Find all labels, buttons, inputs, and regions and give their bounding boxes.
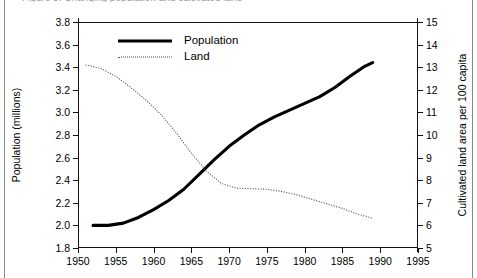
y-tick-right [418,203,423,204]
y-tick-label-right: 14 [426,39,438,50]
legend-label-population: Population [184,35,238,47]
y-tick-right [418,112,423,113]
x-tick-label: 1990 [369,256,392,267]
x-tick-label: 1965 [180,256,203,267]
y-tick-label-right: 15 [426,17,438,28]
x-tick [191,248,192,253]
y-tick-right [418,67,423,68]
y-tick-right [418,45,423,46]
y-tick-label-left: 1.8 [55,243,70,254]
x-tick [267,248,268,253]
y-tick-right [418,22,423,23]
y-tick-label-right: 6 [426,220,432,231]
x-tick-label: 1985 [331,256,354,267]
y-tick-label-right: 11 [426,107,437,118]
x-tick [78,248,79,253]
y-tick-right [418,225,423,226]
x-tick [305,248,306,253]
y-tick-label-left: 2.8 [55,130,70,141]
chart-screenshot: Figure 3. Changing population and cultiv… [0,0,477,278]
legend-item-population: Population [118,33,238,49]
x-tick-label: 1950 [66,256,89,267]
y-tick-label-left: 3.0 [55,107,70,118]
y-tick-label-right: 7 [426,198,432,209]
x-tick-label: 1975 [255,256,278,267]
figure-caption: Figure 3. Changing population and cultiv… [22,0,322,2]
x-tick [418,248,419,253]
page-border-left [4,0,5,278]
y-tick-right [418,135,423,136]
x-tick-label: 1960 [142,256,165,267]
x-tick-label: 1995 [406,256,429,267]
y-tick-label-right: 13 [426,62,438,73]
y-axis-right-title: Cultivated land area per 100 capita [456,54,468,217]
x-tick [229,248,230,253]
legend-swatch-population-icon [118,36,172,46]
x-tick [342,248,343,253]
legend-item-land: Land [118,49,238,65]
page-border-right [472,0,473,278]
y-tick-label-right: 12 [426,85,438,96]
legend-swatch-land-icon [118,52,172,62]
series-line-population [93,63,373,226]
y-tick-label-right: 10 [426,130,438,141]
y-tick-label-right: 8 [426,175,432,186]
y-tick-label-left: 2.4 [55,175,70,186]
legend-label-land: Land [184,51,210,63]
x-tick-label: 1955 [104,256,127,267]
y-tick-right [418,180,423,181]
y-tick-label-left: 2.0 [55,220,70,231]
chart-legend: Population Land [118,33,238,65]
y-axis-left-title: Population (millions) [10,88,22,183]
x-tick-label: 1980 [293,256,316,267]
y-tick-label-left: 3.8 [55,17,70,28]
y-tick-label-right: 5 [426,243,432,254]
x-tick [116,248,117,253]
y-tick-label-left: 2.6 [55,152,70,163]
y-tick-label-left: 3.2 [55,85,70,96]
y-tick-label-left: 3.4 [55,62,70,73]
x-tick [380,248,381,253]
x-tick-label: 1970 [217,256,240,267]
y-tick-right [418,158,423,159]
y-tick-right [418,90,423,91]
y-tick-label-left: 3.6 [55,39,70,50]
y-tick-label-left: 2.2 [55,198,70,209]
x-tick [154,248,155,253]
y-tick-label-right: 9 [426,152,432,163]
series-line-land [86,65,373,218]
